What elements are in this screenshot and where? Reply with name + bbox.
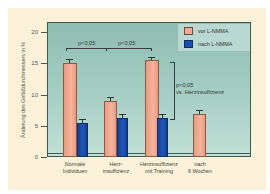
y-tick-20 (41, 32, 47, 33)
x-label-herz: Herz- insuffizienz (98, 161, 134, 174)
significance-bracket-2 (107, 48, 151, 49)
bar-herz-nach (117, 118, 128, 157)
y-axis-title: Änderung des Gefäßdurchmessers in % (20, 42, 26, 138)
x-label-line: nach (184, 161, 216, 168)
y-tick-10 (41, 95, 47, 96)
y-label-15: 15 (26, 60, 38, 66)
y-tick-0 (41, 157, 47, 158)
bar-training-nach (157, 118, 168, 157)
error-cap (196, 110, 203, 111)
x-label-line: Individuen (58, 168, 92, 175)
error-cap (159, 114, 166, 115)
significance-bracket-1 (66, 48, 107, 49)
p-value-label-3a: p<0,05 (176, 82, 193, 88)
legend-label-vor: vor L-NMMA (198, 28, 228, 34)
error-cap (79, 119, 86, 120)
x-label-line: insuffizienz (98, 168, 134, 175)
p-value-label-3b: vs. Herzinsuffizienz (176, 89, 224, 95)
error-cap (66, 59, 73, 60)
legend-label-nach: nach L-NMMA (198, 41, 232, 47)
x-label-training: Herzinsuffizienz mit Training (136, 161, 182, 174)
y-tick-15 (41, 63, 47, 64)
x-label-normale: Normale Individuen (58, 161, 92, 174)
x-label-line: Normale (58, 161, 92, 168)
x-label-line: Herzinsuffizienz (136, 161, 182, 168)
x-label-line: Herz- (98, 161, 134, 168)
y-label-10: 10 (26, 92, 38, 98)
y-label-0: 0 (26, 154, 38, 160)
error-cap (119, 114, 126, 115)
bar-6wochen-vor (193, 114, 206, 157)
x-label-6wochen: nach 6 Wochen (184, 161, 216, 174)
bracket-tick (66, 48, 67, 51)
legend-swatch-vor (184, 27, 193, 35)
significance-bracket-3 (170, 62, 175, 120)
p-value-label-1: p<0,05 (78, 40, 95, 46)
bar-normale-vor (63, 63, 77, 157)
error-cap (148, 57, 155, 58)
legend-swatch-nach (184, 40, 193, 48)
x-label-line: 6 Wochen (184, 168, 216, 175)
bar-normale-nach (77, 123, 88, 157)
y-label-20: 20 (26, 29, 38, 35)
error-cap (107, 97, 114, 98)
x-label-line: mit Training (136, 168, 182, 175)
y-tick-5 (41, 126, 47, 127)
bar-herz-vor (104, 101, 117, 157)
bracket-tick (151, 48, 152, 51)
y-label-5: 5 (26, 123, 38, 129)
p-value-label-2: p<0,05 (118, 40, 135, 46)
